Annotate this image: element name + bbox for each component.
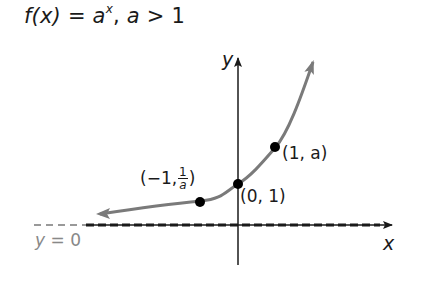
point-one [270,142,280,152]
point-neg-one-suffix: ) [189,168,196,188]
point-neg-one-label: (−1,1a) [140,166,195,191]
fraction-one-over-a: 1a [178,166,188,191]
asymptote-val: 0 [70,230,81,250]
point-zero-label: (0, 1) [240,186,286,206]
y-axis-label: y [222,48,233,70]
asymptote-label: y = 0 [35,230,81,250]
fraction-denominator: a [178,179,188,191]
point-neg-one-prefix: (−1, [140,168,177,188]
x-axis-label: x [383,232,394,254]
point-neg-one [195,197,205,207]
point-one-label: (1, a) [282,143,327,163]
asymptote-var: y [35,230,45,250]
asymptote-eq: = [50,230,64,250]
